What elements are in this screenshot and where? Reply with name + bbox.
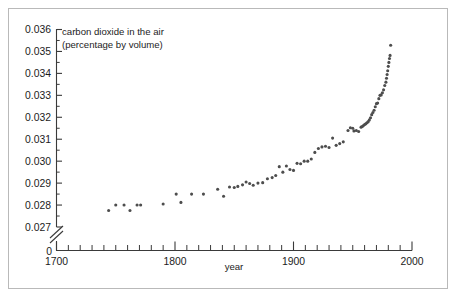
data-point bbox=[278, 165, 281, 168]
x-tick-label: 1900 bbox=[282, 256, 305, 267]
data-point bbox=[241, 183, 244, 186]
data-point bbox=[256, 182, 259, 185]
data-point bbox=[248, 182, 251, 185]
y-tick-labels: 0.0270.0280.0290.0300.0310.0320.0330.034… bbox=[25, 24, 51, 233]
data-point bbox=[328, 146, 331, 149]
data-point bbox=[299, 162, 302, 165]
chart-title-line2: (percentage by volume) bbox=[62, 39, 163, 50]
data-point bbox=[107, 209, 110, 212]
data-point bbox=[303, 160, 306, 163]
data-point bbox=[369, 116, 372, 119]
data-point bbox=[313, 151, 316, 154]
data-point bbox=[320, 145, 323, 148]
data-point bbox=[175, 193, 178, 196]
figure-root: 0.0270.0280.0290.0300.0310.0320.0330.034… bbox=[0, 0, 458, 299]
data-point bbox=[324, 145, 327, 148]
x-axis-group: 1700180019002000 year bbox=[45, 242, 424, 273]
data-point bbox=[384, 81, 387, 84]
data-point bbox=[377, 97, 380, 100]
data-point bbox=[222, 195, 225, 198]
y-tick-label: 0.027 bbox=[25, 222, 51, 233]
x-tick-label: 2000 bbox=[400, 256, 423, 267]
data-point bbox=[228, 186, 231, 189]
x-tick-marks bbox=[57, 242, 413, 251]
chart-title-line1: carbon dioxide in the air bbox=[62, 26, 165, 37]
data-point bbox=[386, 69, 389, 72]
data-point bbox=[389, 44, 392, 47]
data-point bbox=[190, 193, 193, 196]
data-point bbox=[385, 77, 388, 80]
data-point bbox=[376, 101, 379, 104]
data-point bbox=[136, 204, 139, 207]
y-tick-label: 0.030 bbox=[25, 156, 51, 167]
x-tick-label: 1800 bbox=[163, 256, 186, 267]
scatter-plot: 0.0270.0280.0290.0300.0310.0320.0330.034… bbox=[0, 0, 458, 299]
data-point bbox=[123, 204, 126, 207]
data-point bbox=[306, 160, 309, 163]
data-point bbox=[357, 130, 360, 133]
data-point bbox=[179, 201, 182, 204]
data-point bbox=[274, 174, 277, 177]
y-axis-group: 0.0270.0280.0290.0300.0310.0320.0330.034… bbox=[25, 24, 63, 257]
x-tick-label: 1700 bbox=[45, 256, 68, 267]
y-tick-label: 0.033 bbox=[25, 90, 51, 101]
y-tick-label: 0.035 bbox=[25, 46, 51, 57]
y-tick-label: 0.036 bbox=[25, 24, 51, 35]
data-point bbox=[271, 176, 274, 179]
data-point bbox=[261, 181, 264, 184]
y-tick-label: 0.031 bbox=[25, 134, 51, 145]
data-point bbox=[296, 162, 299, 165]
data-point bbox=[383, 84, 386, 87]
data-point bbox=[310, 157, 313, 160]
data-point bbox=[245, 180, 248, 183]
data-point bbox=[346, 129, 349, 132]
data-point bbox=[381, 91, 384, 94]
data-point bbox=[373, 109, 376, 112]
data-point bbox=[216, 188, 219, 191]
y-tick-label: 0.034 bbox=[25, 68, 51, 79]
x-axis-title: year bbox=[225, 261, 244, 272]
data-point bbox=[387, 65, 390, 68]
data-point bbox=[162, 202, 165, 205]
data-point bbox=[387, 61, 390, 64]
data-point bbox=[386, 73, 389, 76]
data-point-series bbox=[107, 44, 392, 212]
data-point bbox=[288, 168, 291, 171]
data-point bbox=[292, 169, 295, 172]
y-tick-label: 0.029 bbox=[25, 178, 51, 189]
data-point bbox=[342, 140, 345, 143]
data-point bbox=[389, 54, 392, 57]
y-tick-marks bbox=[57, 30, 63, 228]
data-point bbox=[128, 209, 131, 212]
data-point bbox=[317, 147, 320, 150]
data-point bbox=[285, 164, 288, 167]
data-point bbox=[281, 171, 284, 174]
chart-title-group: carbon dioxide in the air (percentage by… bbox=[62, 26, 165, 50]
data-point bbox=[335, 144, 338, 147]
data-point bbox=[388, 57, 391, 60]
data-point bbox=[266, 177, 269, 180]
data-point bbox=[252, 184, 255, 187]
data-point bbox=[338, 142, 341, 145]
y-tick-label: 0.032 bbox=[25, 112, 51, 123]
axis-break-icon-2 bbox=[50, 226, 63, 238]
y-tick-label: 0.028 bbox=[25, 200, 51, 211]
data-point bbox=[139, 204, 142, 207]
data-point bbox=[374, 105, 377, 108]
data-point bbox=[331, 137, 334, 140]
data-point bbox=[236, 185, 239, 188]
data-point bbox=[114, 204, 117, 207]
data-point bbox=[382, 88, 385, 91]
data-point bbox=[202, 193, 205, 196]
data-point bbox=[233, 186, 236, 189]
